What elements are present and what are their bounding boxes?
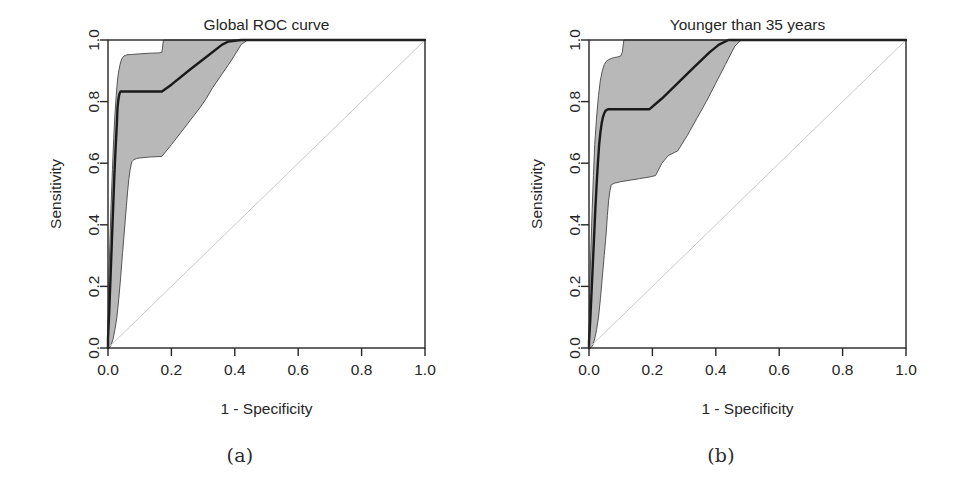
subcaption-a: (a) — [0, 444, 480, 466]
y-axis-title: Sensitivity — [528, 159, 545, 229]
x-tick-label: 0.2 — [161, 361, 183, 378]
x-tick-label: 1.0 — [414, 361, 436, 378]
x-tick-label: 0.8 — [832, 361, 854, 378]
roc-figure: 0.00.20.40.60.81.00.00.20.40.60.81.0Glob… — [0, 0, 961, 504]
x-tick-label: 0.4 — [224, 361, 246, 378]
x-axis-title: 1 - Specificity — [701, 400, 793, 417]
x-tick-label: 1.0 — [895, 361, 917, 378]
y-tick-label: 0.6 — [85, 152, 102, 174]
subcaption-b: (b) — [481, 444, 961, 466]
x-tick-label: 0.0 — [97, 361, 119, 378]
plot-a-render: 0.00.20.40.60.81.00.00.20.40.60.81.0Glob… — [47, 16, 436, 417]
x-tick-label: 0.0 — [578, 361, 600, 378]
y-tick-label: 0.8 — [566, 91, 583, 113]
x-axis-title: 1 - Specificity — [220, 400, 312, 417]
plot-title: Younger than 35 years — [670, 16, 826, 33]
y-tick-label: 0.0 — [85, 337, 102, 359]
y-tick-label: 0.4 — [85, 214, 102, 236]
y-tick-label: 0.4 — [566, 214, 583, 236]
x-tick-label: 0.6 — [287, 361, 309, 378]
panel-b: 0.00.20.40.60.81.00.00.20.40.60.81.0Youn… — [481, 0, 961, 504]
x-tick-label: 0.6 — [768, 361, 790, 378]
y-tick-label: 0.8 — [85, 91, 102, 113]
x-tick-label: 0.8 — [351, 361, 373, 378]
y-axis-title: Sensitivity — [47, 159, 64, 229]
roc-plot-a: 0.00.20.40.60.81.00.00.20.40.60.81.0Glob… — [0, 0, 480, 440]
plot-b-render: 0.00.20.40.60.81.00.00.20.40.60.81.0Youn… — [528, 16, 917, 417]
y-tick-label: 0.2 — [566, 276, 583, 298]
y-tick-label: 0.6 — [566, 152, 583, 174]
y-tick-label: 0.2 — [85, 276, 102, 298]
panel-a: 0.00.20.40.60.81.00.00.20.40.60.81.0Glob… — [0, 0, 480, 504]
plot-title: Global ROC curve — [204, 16, 330, 33]
x-tick-label: 0.2 — [642, 361, 664, 378]
roc-plot-b: 0.00.20.40.60.81.00.00.20.40.60.81.0Youn… — [481, 0, 961, 440]
x-tick-label: 0.4 — [705, 361, 727, 378]
y-tick-label: 1.0 — [566, 29, 583, 51]
y-tick-label: 0.0 — [566, 337, 583, 359]
y-tick-label: 1.0 — [85, 29, 102, 51]
